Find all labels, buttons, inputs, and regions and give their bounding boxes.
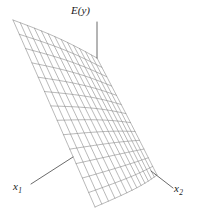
leader-line-x1 <box>31 157 73 184</box>
mesh-line <box>20 23 102 204</box>
surface-wireframe-svg <box>0 0 197 219</box>
leader-line-x2 <box>151 171 173 188</box>
mesh-line <box>13 20 97 58</box>
mesh-line <box>48 34 127 193</box>
mesh-line <box>26 49 107 77</box>
factor-2-axis-label: x2 <box>174 183 183 194</box>
mesh-line <box>82 158 148 178</box>
factor-2-subscript: 2 <box>179 188 183 197</box>
mesh-line <box>27 25 108 201</box>
leader-lines <box>31 22 173 188</box>
factor-1-axis-label: x1 <box>13 181 22 192</box>
mesh-line <box>68 42 142 185</box>
mesh-line <box>34 28 115 198</box>
mesh-line <box>74 45 145 183</box>
mesh-line <box>55 37 132 191</box>
response-surface-figure: E(y) x1 x2 <box>0 0 197 219</box>
mesh-line <box>85 52 151 179</box>
factor-1-subscript: 1 <box>18 186 22 195</box>
mesh-line <box>57 120 130 123</box>
mesh-grid <box>13 20 157 207</box>
mesh-line <box>13 20 95 207</box>
response-axis-label: E(y) <box>71 5 90 16</box>
